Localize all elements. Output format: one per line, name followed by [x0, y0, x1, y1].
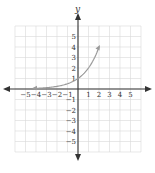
y-tick-label: −2 — [66, 107, 76, 115]
y-axis-up-arrow-icon — [75, 13, 81, 20]
y-tick-label: −1 — [66, 96, 76, 104]
x-tick-label: 1 — [86, 91, 90, 99]
x-axis-right-arrow-icon — [145, 86, 152, 92]
y-tick-label: −5 — [66, 138, 76, 146]
x-tick-label: 5 — [128, 91, 132, 99]
x-axis-left-arrow-icon — [3, 86, 10, 92]
x-tick-label: 2 — [97, 91, 101, 99]
x-tick-label: −5 — [20, 91, 30, 99]
coordinate-plane-chart: −5−4−3−2−112345−5−4−3−2−112345 y — [0, 0, 155, 173]
y-tick-label: −4 — [66, 128, 77, 136]
x-tick-label: −4 — [31, 91, 42, 99]
y-axis-label: y — [74, 4, 81, 14]
y-tick-label: 3 — [72, 54, 76, 62]
x-tick-label: 3 — [107, 91, 111, 99]
x-tick-label: 4 — [118, 91, 123, 99]
curve-start-arrow-icon — [32, 86, 37, 91]
y-tick-label: 2 — [72, 65, 76, 73]
y-tick-label: 5 — [72, 33, 76, 41]
y-axis-down-arrow-icon — [75, 154, 81, 161]
x-tick-label: −2 — [52, 91, 62, 99]
y-tick-label: −3 — [66, 117, 76, 125]
y-tick-label: 4 — [72, 44, 77, 52]
x-tick-label: −3 — [41, 91, 51, 99]
